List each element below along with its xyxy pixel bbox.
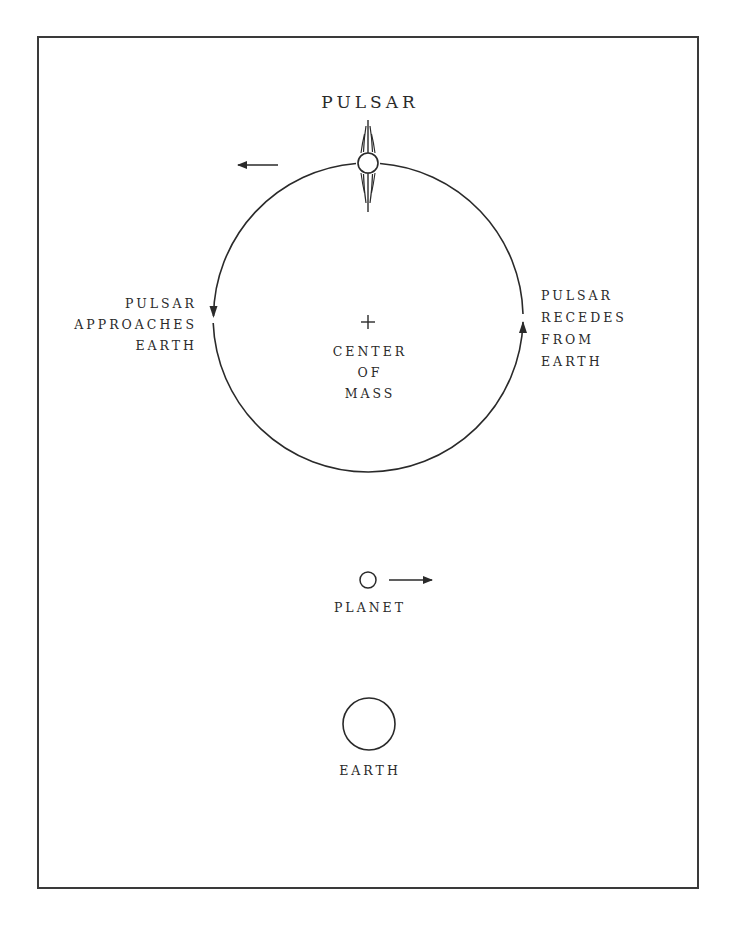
svg-text:RECEDES: RECEDES	[541, 310, 627, 325]
orbit-diagram: PULSAR PULSAR APPROACHES EARTH PULSAR RE…	[0, 0, 734, 926]
svg-text:EARTH: EARTH	[541, 354, 603, 369]
svg-text:MASS: MASS	[345, 386, 396, 401]
planet-label: PLANET	[334, 600, 406, 615]
svg-text:CENTER: CENTER	[333, 344, 408, 359]
orbit-arrow-left-down-icon	[210, 306, 218, 318]
svg-text:OF: OF	[358, 365, 383, 380]
pulsar-label: PULSAR	[321, 92, 418, 112]
pulsar-icon	[358, 120, 378, 212]
pulsar-approaches-label: PULSAR APPROACHES EARTH	[73, 296, 197, 353]
earth-icon	[343, 698, 395, 750]
svg-text:FROM: FROM	[541, 332, 594, 347]
center-of-mass-cross-icon	[361, 315, 375, 329]
center-of-mass-label: CENTER OF MASS	[333, 344, 408, 401]
planet-icon	[360, 572, 376, 588]
svg-text:EARTH: EARTH	[135, 338, 197, 353]
svg-text:APPROACHES: APPROACHES	[73, 317, 197, 332]
svg-text:PULSAR: PULSAR	[541, 288, 613, 303]
pulsar-recedes-label: PULSAR RECEDES FROM EARTH	[541, 288, 627, 369]
svg-text:PULSAR: PULSAR	[125, 296, 197, 311]
earth-label: EARTH	[339, 763, 401, 778]
orbit-arrow-right-up-icon	[519, 321, 527, 333]
